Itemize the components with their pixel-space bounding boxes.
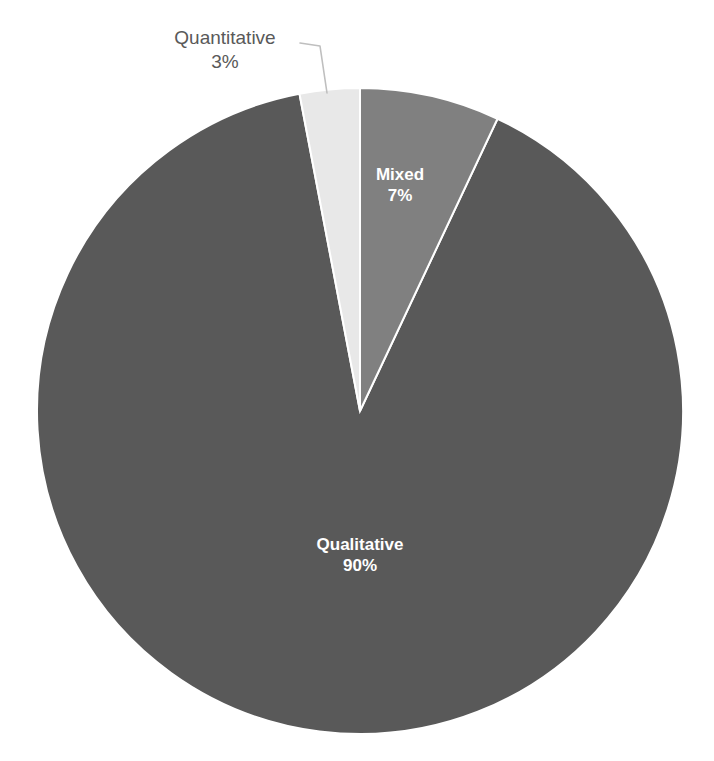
pie-chart: Quantitative 3% Mixed 7% Qualitative 90% [0,0,714,761]
pie-chart-canvas [0,0,714,761]
quantitative-leader-line [300,43,327,93]
